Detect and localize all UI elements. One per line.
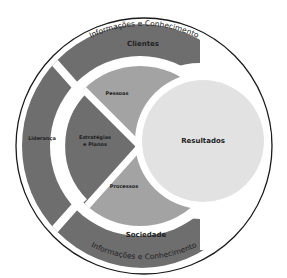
mebg-diagram: Clientes Sociedade Liderança Estratégias…: [0, 0, 287, 278]
label-resultados: Resultados: [181, 137, 225, 145]
label-lideranca: Liderança: [28, 135, 56, 141]
label-sociedade: Sociedade: [126, 231, 167, 239]
label-processos: Processos: [110, 183, 138, 189]
label-estrategias-2: e Planos: [83, 141, 107, 147]
label-estrategias-1: Estratégias: [79, 134, 111, 141]
label-clientes: Clientes: [127, 40, 159, 48]
label-pessoas: Pessoas: [106, 90, 129, 96]
